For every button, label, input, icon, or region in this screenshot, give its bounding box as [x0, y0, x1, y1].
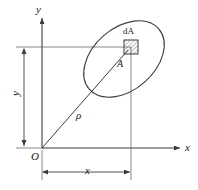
differential-element-dA	[124, 40, 138, 54]
y-axis-label: y	[36, 4, 41, 15]
rho-label: ρ	[76, 110, 81, 121]
x-dimension-label: x	[85, 165, 90, 176]
dA-hatch-fill	[124, 40, 138, 54]
diagram-svg	[0, 0, 198, 190]
x-axis-label: x	[185, 142, 190, 153]
coordinate-axes	[42, 18, 180, 148]
area-boundary-ellipse	[69, 5, 179, 112]
differential-area-label: dA	[123, 27, 134, 36]
origin-label: O	[31, 151, 39, 162]
y-dimension-label: y	[10, 91, 21, 96]
figure-canvas: y x O ρ A dA x y	[0, 0, 198, 190]
area-label: A	[117, 59, 123, 69]
